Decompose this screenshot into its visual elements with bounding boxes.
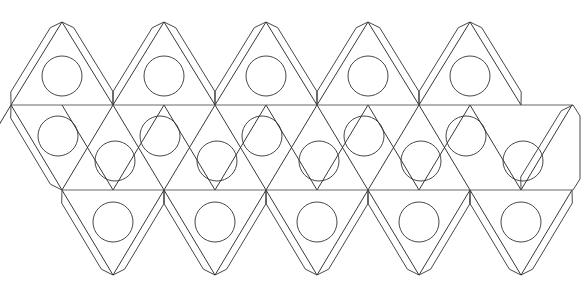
top-face-4 <box>317 22 419 105</box>
net-drawing <box>0 0 583 292</box>
middle-down-face-2 <box>164 105 266 190</box>
face-circle-top-band-2 <box>144 56 184 96</box>
face-circle-top-band-3 <box>246 56 286 96</box>
icosahedron-net-canvas <box>0 0 583 292</box>
face-circle-bottom-band-3 <box>297 202 337 242</box>
bottom-face-5 <box>470 190 572 275</box>
face-circle-bottom-band-2 <box>195 202 235 242</box>
face-circle-middle-upper-band-2 <box>140 116 180 156</box>
middle-down-face-3 <box>266 105 368 190</box>
face-circle-bottom-band-1 <box>93 202 133 242</box>
bottom-face-4 <box>368 190 470 275</box>
face-circle-top-band-1 <box>42 56 82 96</box>
face-circle-middle-upper-band-3 <box>242 116 282 156</box>
middle-up-face-5 <box>368 105 470 190</box>
middle-up-face-3 <box>164 105 266 190</box>
middle-down-face-1 <box>62 105 164 190</box>
top-face-3 <box>215 22 317 105</box>
middle-down-face-4 <box>368 105 470 190</box>
face-circle-middle-lower-band-3 <box>299 141 339 181</box>
middle-up-face-4 <box>266 105 368 190</box>
face-circle-top-band-5 <box>450 56 490 96</box>
bottom-face-3 <box>266 190 368 275</box>
top-face-2 <box>113 22 215 105</box>
face-circle-middle-lower-band-2 <box>197 141 237 181</box>
top-face-5 <box>419 22 521 105</box>
glue-tab-right-edge <box>573 105 580 190</box>
bottom-face-1 <box>62 190 164 275</box>
face-circle-middle-lower-band-4 <box>401 141 441 181</box>
face-circle-bottom-band-4 <box>399 202 439 242</box>
face-circle-middle-upper-band-5 <box>446 116 486 156</box>
face-circle-middle-lower-band-5 <box>503 141 543 181</box>
face-circle-middle-upper-band-1 <box>38 116 78 156</box>
face-circle-top-band-4 <box>348 56 388 96</box>
face-circle-middle-lower-band-1 <box>95 141 135 181</box>
middle-up-face-2 <box>62 105 164 190</box>
bottom-face-2 <box>164 190 266 275</box>
top-face-1 <box>11 22 113 105</box>
middle-up-face-1 <box>0 105 62 190</box>
face-circle-bottom-band-5 <box>501 202 541 242</box>
face-circle-middle-upper-band-4 <box>344 116 384 156</box>
